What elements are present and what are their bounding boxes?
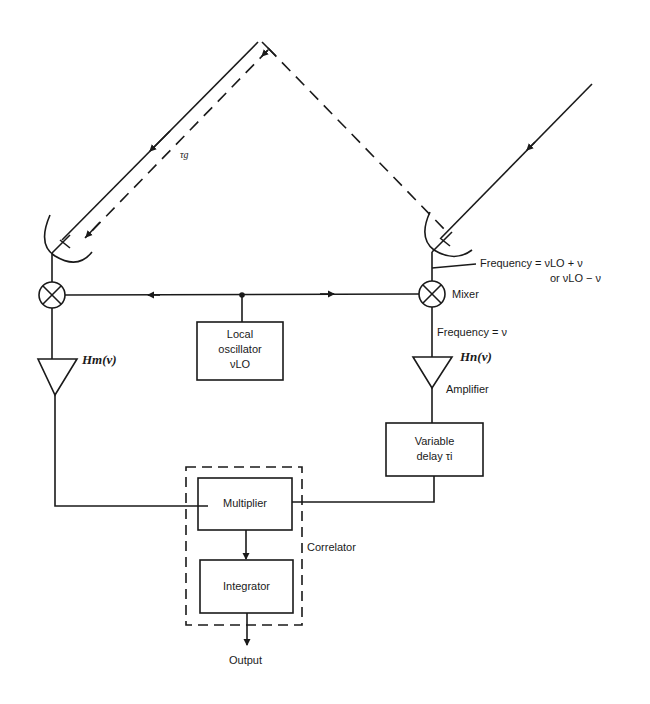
right-mixer-icon: [419, 281, 445, 307]
wavefront-line: [268, 48, 445, 230]
local-oscillator-line2: oscillator: [197, 342, 283, 357]
rf-frequency-label-2: or νLO − ν: [550, 272, 601, 285]
left-mixer-icon: [39, 282, 65, 308]
correlator-enclosure: [186, 467, 302, 625]
geometric-delay-label: τg: [180, 148, 189, 161]
variable-delay-text: Variable delay τi: [386, 434, 483, 464]
amplifier-label: Amplifier: [446, 383, 489, 396]
gain-m-label: Hm(ν): [82, 353, 117, 366]
correlator-label: Correlator: [307, 541, 356, 554]
right-incoming-ray: [441, 84, 592, 238]
output-label: Output: [229, 654, 262, 667]
rf-frequency-label-1: Frequency = νLO + ν: [480, 257, 583, 270]
if-frequency-label: Frequency = ν: [437, 326, 507, 339]
multiplier-text: Multiplier: [198, 496, 292, 511]
variable-delay-line1: Variable: [386, 434, 483, 449]
right-antenna-icon: [425, 212, 472, 257]
left-incoming-ray: [62, 42, 258, 240]
local-oscillator-line1: Local: [197, 327, 283, 342]
gain-n-label: Hn(ν): [460, 350, 492, 363]
variable-delay-line2: delay τi: [386, 449, 483, 464]
lo-distribution-line: [65, 293, 419, 322]
local-oscillator-text: Local oscillator νLO: [197, 327, 283, 372]
local-oscillator-line3: νLO: [197, 357, 283, 372]
left-amplifier-icon: [38, 359, 77, 395]
mixer-label: Mixer: [452, 288, 479, 301]
integrator-text: Integrator: [200, 579, 293, 594]
geometric-delay-path: [85, 42, 276, 238]
